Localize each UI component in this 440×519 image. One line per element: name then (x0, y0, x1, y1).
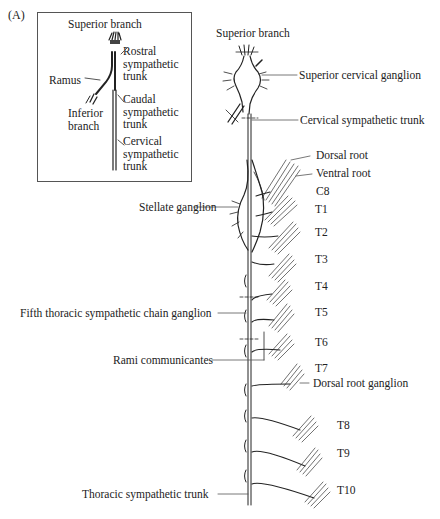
dorsal-root-label: Dorsal root (316, 149, 368, 162)
fifth-thoracic-ganglion-label: Fifth thoracic sympathetic chain ganglio… (20, 307, 212, 320)
thoracic-sympathetic-trunk-label: Thoracic sympathetic trunk (82, 488, 208, 501)
cervical-sympathetic-trunk-label: Cervical sympathetic trunk (300, 114, 425, 127)
main-sympathetic-trunk (223, 45, 269, 505)
root-bundle-t2 (269, 222, 300, 254)
segment-label-t9: T9 (337, 447, 350, 460)
root-bundle-t9 (297, 448, 322, 476)
superior-branch-label: Superior branch (216, 27, 290, 40)
segment-label-t10: T10 (337, 484, 356, 497)
ventral-root-label: Ventral root (316, 167, 371, 180)
segment-label-t1: T1 (315, 203, 328, 216)
rami-communicantes-label: Rami communicantes (113, 354, 213, 367)
root-bundle-t5 (269, 304, 294, 332)
inset-trunk-drawing (85, 32, 127, 170)
segment-label-t5: T5 (315, 306, 328, 319)
dorsal-root-ganglion-label: Dorsal root ganglion (313, 377, 408, 390)
root-bundle-t4 (267, 280, 292, 306)
segment-label-t2: T2 (315, 226, 328, 239)
segment-label-c8: C8 (316, 185, 329, 198)
segment-label-t7: T7 (315, 362, 328, 375)
segment-label-t6: T6 (315, 336, 328, 349)
root-bundle-t7 (281, 364, 304, 390)
stellate-ganglion-label: Stellate ganglion (139, 201, 217, 214)
segment-label-t4: T4 (315, 280, 328, 293)
segment-label-t8: T8 (337, 419, 350, 432)
root-bundle-t10 (305, 482, 330, 508)
root-bundle-t3 (269, 254, 296, 282)
root-bundle-c8 (262, 160, 300, 206)
superior-cervical-ganglion-label: Superior cervical ganglion (299, 69, 421, 82)
leader-lines (194, 75, 312, 494)
root-bundle-t6 (269, 334, 294, 360)
segment-label-t3: T3 (315, 253, 328, 266)
